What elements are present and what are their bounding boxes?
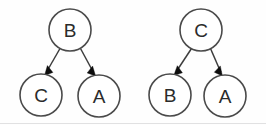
node-label-left-child-left: C bbox=[34, 85, 48, 106]
binary-tree-diagram: B C A bbox=[0, 0, 266, 125]
edge-right-root-to-left-child bbox=[174, 49, 192, 76]
edge-left-root-to-right-child bbox=[81, 49, 96, 77]
node-label-right-child-left: B bbox=[164, 85, 177, 106]
node-right-child-right[interactable]: A bbox=[204, 75, 246, 117]
node-left-root[interactable]: B bbox=[49, 9, 91, 51]
right-tree-group: C B A bbox=[149, 9, 246, 117]
node-label-right-child-right: A bbox=[219, 86, 232, 107]
node-right-child-left[interactable]: B bbox=[149, 74, 191, 116]
left-tree-group: B C A bbox=[20, 9, 120, 117]
edge-left-root-to-left-child bbox=[45, 49, 61, 76]
node-label-left-child-right: A bbox=[93, 86, 106, 107]
arrowhead-b-to-a bbox=[87, 66, 95, 76]
node-right-root[interactable]: C bbox=[180, 9, 222, 51]
edge-right-root-to-right-child bbox=[211, 49, 223, 77]
node-left-child-left[interactable]: C bbox=[20, 74, 62, 116]
scan-edge-artifact bbox=[0, 123, 266, 124]
node-label-left-root: B bbox=[64, 20, 77, 41]
node-label-right-root: C bbox=[194, 20, 208, 41]
node-left-child-right[interactable]: A bbox=[78, 75, 120, 117]
diagram-canvas: B C A bbox=[0, 0, 266, 125]
